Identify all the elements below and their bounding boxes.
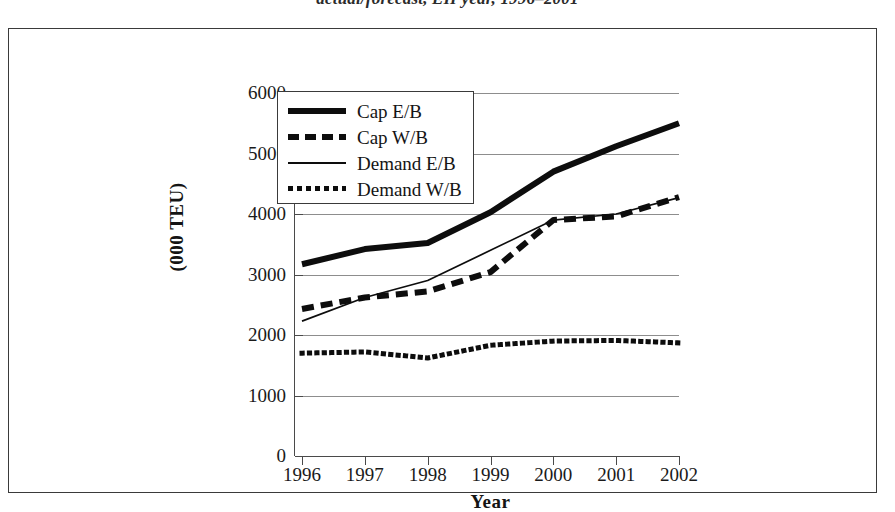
x-tick-label: 1998 <box>393 465 463 484</box>
figure-caption-strip: actual/forecast, EH year, 1996–2001 <box>0 0 895 14</box>
legend-item[interactable]: Cap W/B <box>286 124 465 150</box>
legend-item-label: Demand E/B <box>357 154 456 173</box>
legend-swatch-mark <box>288 108 346 114</box>
y-tick-label: 2000 <box>216 325 286 344</box>
legend-swatch-mark <box>288 134 346 140</box>
figure-caption: actual/forecast, EH year, 1996–2001 <box>0 0 895 9</box>
x-tick-label: 1999 <box>456 465 526 484</box>
legend-item[interactable]: Cap E/B <box>286 98 465 124</box>
series-line <box>302 340 679 358</box>
x-tick-label: 1996 <box>267 465 337 484</box>
line-dotted-icon <box>286 182 348 196</box>
y-tick-label: 0 <box>216 446 286 465</box>
y-tick-label: 5000 <box>216 144 286 163</box>
y-tick-label: 1000 <box>216 386 286 405</box>
figure-frame: 0100020003000400050006000 19961997199819… <box>8 28 877 493</box>
y-tick-label: 3000 <box>216 265 286 284</box>
legend: Cap E/BCap W/BDemand E/BDemand W/B <box>277 91 474 204</box>
legend-item[interactable]: Demand W/B <box>286 176 465 202</box>
legend-swatch-mark <box>288 186 346 191</box>
legend-item-label: Cap W/B <box>357 128 428 147</box>
x-tick-label: 2001 <box>581 465 651 484</box>
y-tick-label: 6000 <box>216 83 286 102</box>
line-thick-solid-icon <box>286 104 348 118</box>
legend-item-label: Demand W/B <box>357 180 462 199</box>
x-tick-label: 1997 <box>330 465 400 484</box>
x-axis-title: Year <box>294 491 687 512</box>
y-tick-label: 4000 <box>216 204 286 223</box>
legend-item[interactable]: Demand E/B <box>286 150 465 176</box>
legend-item-label: Cap E/B <box>357 102 422 121</box>
y-axis-title: (000 TEU) <box>166 182 188 271</box>
x-tick-label: 2002 <box>644 465 714 484</box>
line-thick-dashed-icon <box>286 130 348 144</box>
legend-swatch-mark <box>288 162 346 164</box>
x-tick-label: 2000 <box>518 465 588 484</box>
line-thin-solid-icon <box>286 156 348 170</box>
